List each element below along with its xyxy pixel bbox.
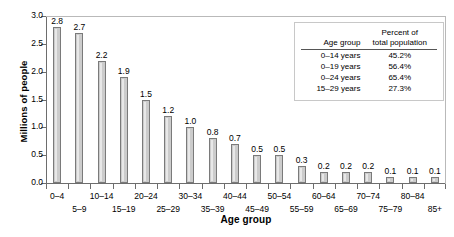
bar-chart: Millions of people 0.00.51.01.52.02.53.0… — [0, 0, 454, 237]
x-tick-mark — [135, 184, 136, 189]
cell-age-group: 0–24 years — [301, 72, 362, 83]
x-tick-mark — [379, 184, 380, 189]
table-row: 0–24 years65.4% — [301, 72, 437, 83]
bar-highlight — [122, 79, 124, 181]
x-tick-label: 55–59 — [282, 204, 322, 214]
bar-highlight — [211, 140, 213, 181]
bar-value-label: 0.1 — [379, 166, 401, 176]
bar-value-label: 0.2 — [335, 161, 357, 171]
bar — [342, 172, 350, 183]
x-tick-mark — [157, 184, 158, 189]
bar-highlight — [388, 179, 390, 181]
plot-top-border — [46, 16, 446, 17]
x-tick-label: 30–34 — [170, 191, 210, 201]
bar — [320, 172, 328, 183]
x-tick-mark — [224, 184, 225, 189]
bar — [298, 166, 306, 183]
x-tick-mark — [246, 184, 247, 189]
y-tick-label: 3.0 — [31, 10, 43, 21]
bar — [120, 77, 128, 183]
x-tick-label: 40–44 — [215, 191, 255, 201]
bar — [409, 177, 417, 183]
summary-table-body: 0–14 years45.2%0–19 years56.4%0–24 years… — [301, 50, 437, 95]
bar-highlight — [277, 157, 279, 181]
cell-percent: 56.4% — [362, 61, 437, 72]
bar-value-label: 0.5 — [268, 144, 290, 154]
bar — [209, 138, 217, 183]
x-tick-label: 80–84 — [393, 191, 433, 201]
x-tick-mark — [113, 184, 114, 189]
y-axis-line — [46, 16, 47, 184]
y-tick-label: 0.0 — [31, 177, 43, 188]
x-tick-label: 75–79 — [370, 204, 410, 214]
x-tick-label: 20–24 — [126, 191, 166, 201]
x-tick-mark — [313, 184, 314, 189]
bar-highlight — [344, 174, 346, 181]
cell-age-group: 0–19 years — [301, 61, 362, 72]
bar — [275, 155, 283, 183]
bar-highlight — [77, 35, 79, 181]
y-tick-label: 2.5 — [31, 38, 43, 49]
table-row: 15–29 years27.3% — [301, 83, 437, 94]
x-tick-label: 5–9 — [59, 204, 99, 214]
table-row: 0–19 years56.4% — [301, 61, 437, 72]
bar-highlight — [144, 102, 146, 182]
x-tick-label: 15–19 — [104, 204, 144, 214]
bar-value-label: 0.2 — [357, 161, 379, 171]
bar-value-label: 1.5 — [135, 89, 157, 99]
table-row: 0–14 years45.2% — [301, 50, 437, 62]
x-tick-mark — [68, 184, 69, 189]
bar-highlight — [366, 174, 368, 181]
x-tick-label: 25–29 — [148, 204, 188, 214]
x-tick-label: 50–54 — [259, 191, 299, 201]
bar-value-label: 0.5 — [246, 144, 268, 154]
bar-value-label: 2.7 — [68, 22, 90, 32]
bar — [142, 100, 150, 184]
cell-percent: 27.3% — [362, 83, 437, 94]
bar-value-label: 0.3 — [291, 155, 313, 165]
x-tick-label: 0–4 — [37, 191, 77, 201]
x-tick-label: 85+ — [415, 204, 454, 214]
bar — [98, 61, 106, 183]
y-tick-label: 2.0 — [31, 66, 43, 77]
bar-highlight — [322, 174, 324, 181]
x-tick-mark — [424, 184, 425, 189]
y-tick-label: 1.5 — [31, 94, 43, 105]
x-tick-mark — [202, 184, 203, 189]
x-tick-mark — [90, 184, 91, 189]
bar — [231, 144, 239, 183]
bar-highlight — [100, 63, 102, 181]
column-header-age-group: Age group — [301, 28, 362, 50]
bar-highlight — [188, 129, 190, 181]
bar-highlight — [233, 146, 235, 181]
bar — [53, 27, 61, 183]
column-header-percent-line2: total population — [364, 38, 435, 48]
x-tick-mark — [357, 184, 358, 189]
y-axis-title: Millions of people — [18, 27, 29, 177]
cell-age-group: 0–14 years — [301, 50, 362, 62]
x-axis-title: Age group — [46, 214, 446, 225]
x-tick-label: 60–64 — [304, 191, 344, 201]
bar-highlight — [411, 179, 413, 181]
bar-highlight — [300, 168, 302, 181]
bar — [386, 177, 394, 183]
x-tick-mark — [445, 184, 446, 189]
bar — [253, 155, 261, 183]
x-tick-label: 65–69 — [326, 204, 366, 214]
bar-value-label: 2.8 — [46, 16, 68, 26]
bar-value-label: 0.1 — [402, 166, 424, 176]
x-tick-label: 35–39 — [193, 204, 233, 214]
bar — [164, 116, 172, 183]
x-tick-label: 70–74 — [348, 191, 388, 201]
bar-value-label: 0.7 — [224, 133, 246, 143]
column-header-percent-line1: Percent of — [364, 28, 435, 38]
x-tick-label: 10–14 — [82, 191, 122, 201]
bar-highlight — [166, 118, 168, 181]
x-tick-mark — [335, 184, 336, 189]
bar-highlight — [433, 179, 435, 181]
plot-right-border — [445, 16, 446, 184]
x-tick-mark — [179, 184, 180, 189]
x-tick-label: 45–49 — [237, 204, 277, 214]
table-header-row: Age group Percent of total population — [301, 28, 437, 50]
x-tick-mark — [46, 184, 47, 189]
